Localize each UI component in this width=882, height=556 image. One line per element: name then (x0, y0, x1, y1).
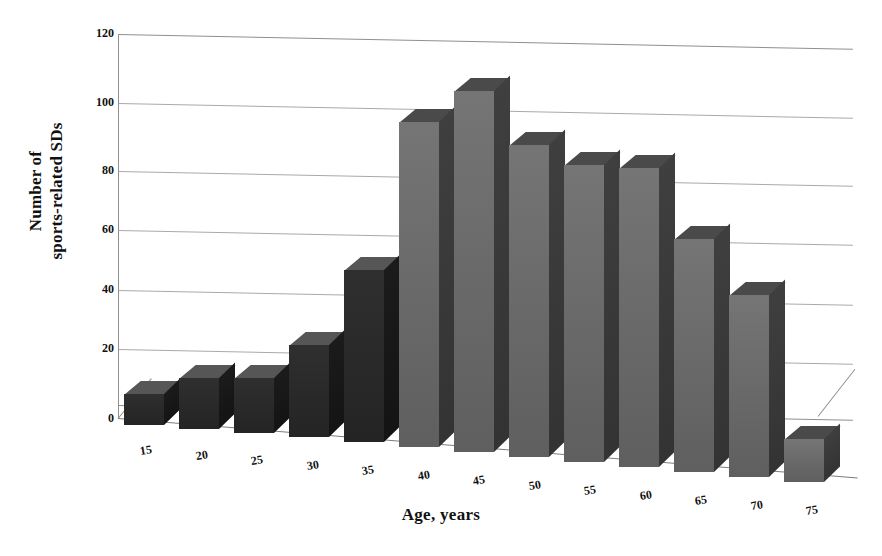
bar-side-face (329, 330, 345, 437)
bar-55 (564, 165, 604, 462)
bar-side-face (549, 130, 565, 457)
bar-65 (674, 239, 714, 472)
bar-side-face (714, 224, 730, 472)
floor-right-edge (818, 369, 856, 417)
bar-front-face (289, 345, 329, 437)
bar-front-face (509, 145, 549, 457)
y-tick-label-20: 20 (76, 341, 114, 356)
x-tick-label-30: 30 (306, 457, 320, 474)
bar-front-face (234, 378, 274, 433)
bar-front-face (179, 378, 219, 429)
y-tick-label-80: 80 (76, 163, 114, 178)
bar-front-face (399, 122, 439, 447)
bar-front-face (454, 91, 494, 452)
x-tick-label-25: 25 (250, 452, 264, 469)
y-tick-label-40: 40 (76, 282, 114, 297)
bar-30 (289, 345, 329, 437)
y-tick-label-100: 100 (76, 95, 114, 110)
bar-front-face (344, 270, 384, 442)
wall-top-edge (118, 34, 853, 50)
bar-35 (344, 270, 384, 442)
bar-50 (509, 145, 549, 457)
x-tick-label-60: 60 (639, 487, 653, 504)
bar-front-face (564, 165, 604, 462)
x-axis-title: Age, years (0, 505, 882, 525)
y-axis-title-line-1: Number of (25, 71, 46, 311)
bar-front-face (729, 295, 769, 477)
bar-70 (729, 295, 769, 477)
bar-25 (234, 378, 274, 433)
bar-front-face (619, 168, 659, 467)
bar-side-face (604, 150, 620, 462)
sports-related-sd-by-age-chart: Number of sports-related SDs 120 100 80 … (0, 0, 882, 556)
bar-side-face (384, 255, 400, 442)
y-tick-label-0: 0 (76, 411, 114, 426)
bar-20 (179, 378, 219, 429)
bar-side-face (439, 107, 455, 447)
x-tick-label-15: 15 (139, 442, 153, 459)
bar-side-face (769, 280, 785, 477)
bar-side-face (659, 153, 675, 467)
bar-front-face (674, 239, 714, 472)
x-tick-label-20: 20 (195, 447, 209, 464)
bar-60 (619, 168, 659, 467)
x-tick-label-55: 55 (583, 482, 597, 499)
bar-front-face (784, 439, 824, 482)
bar-75 (784, 439, 824, 482)
x-tick-label-45: 45 (472, 472, 486, 489)
y-axis-title: Number of sports-related SDs (25, 71, 67, 311)
x-tick-label-40: 40 (417, 467, 431, 484)
y-tick-label-120: 120 (76, 26, 114, 41)
plot-area (118, 20, 860, 440)
x-tick-label-50: 50 (528, 477, 542, 494)
bar-45 (454, 91, 494, 452)
bar-front-face (124, 394, 164, 425)
bar-side-face (494, 76, 510, 452)
x-tick-label-35: 35 (361, 462, 375, 479)
bar-40 (399, 122, 439, 447)
y-axis-title-line-2: sports-related SDs (46, 71, 67, 311)
y-tick-label-60: 60 (76, 222, 114, 237)
bar-15 (124, 394, 164, 425)
wall-left-edge (118, 34, 119, 419)
